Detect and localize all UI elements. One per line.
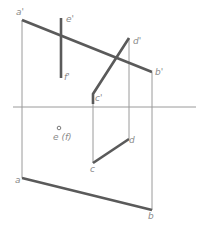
line-a-b <box>22 178 152 210</box>
label-c-prime: c' <box>95 93 102 103</box>
label-e-f: e (f) <box>53 132 72 142</box>
label-d: d <box>129 135 135 145</box>
point-ef-marker <box>57 126 61 130</box>
label-b: b <box>148 211 154 221</box>
label-f-prime: f' <box>64 72 70 82</box>
line-c-d <box>93 139 129 163</box>
label-a: a <box>15 175 21 185</box>
label-e-prime: e' <box>66 14 74 24</box>
label-b-prime: b' <box>155 67 163 77</box>
label-a-prime: a' <box>16 7 24 17</box>
label-d-prime: d' <box>133 36 141 46</box>
line-a-prime-b-prime <box>22 20 152 72</box>
projection-diagram: a' e' f' d' b' c' e (f) d c a b <box>0 0 204 233</box>
label-c: c <box>90 164 95 174</box>
